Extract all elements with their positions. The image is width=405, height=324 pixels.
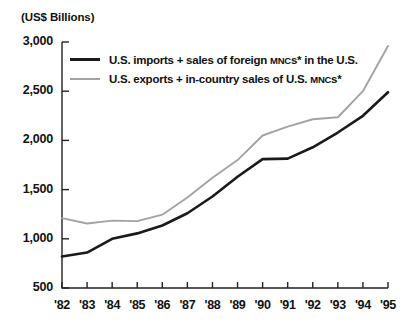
y-axis-tick-label: 2,500 [7,83,53,97]
x-axis-tick-label: '95 [371,298,405,312]
plot-area [0,0,405,324]
y-axis-tick-label: 500 [7,280,53,294]
legend-item: U.S. exports + in-country sales of U.S. … [70,69,390,88]
legend-line-swatch [70,58,100,61]
y-axis-tick-label: 1,000 [7,231,53,245]
legend-item: U.S. imports + sales of foreign MNCs* in… [70,50,390,69]
legend-label: U.S. imports + sales of foreign MNCs* in… [109,54,358,66]
y-axis-title: (US$ Billions) [21,11,94,23]
y-axis-tick-label: 1,500 [7,182,53,196]
legend-label-smallcaps: MNC [310,74,331,85]
legend-label-smallcaps: MNC [270,55,291,66]
y-axis-tick-label: 2,000 [7,132,53,146]
y-axis-tick-label: 3,000 [7,34,53,48]
chart-container: (US$ Billions) 3,0002,5002,0001,5001,000… [0,0,405,324]
chart-legend: U.S. imports + sales of foreign MNCs* in… [70,50,390,88]
legend-label: U.S. exports + in-country sales of U.S. … [109,73,341,85]
legend-line-swatch [70,78,100,80]
